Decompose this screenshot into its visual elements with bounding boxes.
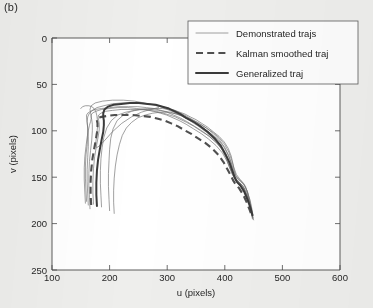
legend-label: Generalized traj [236,68,303,79]
x-tick-label: 400 [217,272,233,283]
y-tick-labels: 0 50 100 150 200 250 [31,33,47,276]
y-tick-label: 200 [31,218,47,229]
x-tick-labels: 100 200 300 400 500 600 [44,272,348,283]
legend-label: Demonstrated trajs [236,28,317,39]
trajectory-chart: 100 200 300 400 500 600 0 50 100 150 200… [0,0,373,308]
x-tick-label: 300 [159,272,175,283]
x-axis-title: u (pixels) [177,287,216,298]
x-tick-label: 200 [102,272,118,283]
y-tick-label: 50 [36,79,47,90]
y-tick-label: 250 [31,265,47,276]
y-tick-label: 100 [31,125,47,136]
y-tick-label: 0 [42,33,47,44]
figure-page: (b) [0,0,373,308]
y-tick-label: 150 [31,172,47,183]
x-tick-label: 500 [274,272,290,283]
legend-label: Kalman smoothed traj [236,48,328,59]
legend: Demonstrated trajs Kalman smoothed traj … [188,21,358,84]
x-tick-label: 600 [332,272,348,283]
y-axis-title: v (pixels) [7,135,18,173]
